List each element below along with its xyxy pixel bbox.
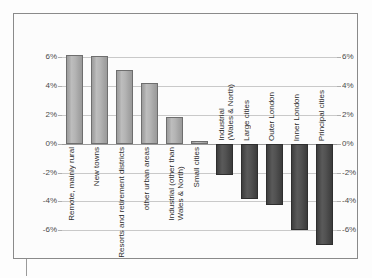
chart-container: 6%6%4%4%2%2%0%0%-2%-2%-4%-4%-6%-6% Remot… xyxy=(0,0,372,278)
y-axis-tick-mark-right xyxy=(337,173,341,174)
y-axis-tick-label-left: 0% xyxy=(45,140,57,148)
category-label: other urban areas xyxy=(142,147,151,210)
y-axis-tick-label-right: 4% xyxy=(342,82,354,90)
y-axis-tick-label-right: 0% xyxy=(342,140,354,148)
category-label: Large cities xyxy=(242,100,251,141)
y-axis-tick-label-left: -6% xyxy=(43,226,57,234)
category-label: Outer London xyxy=(267,92,276,141)
category-label: Remote, mainly rural xyxy=(67,147,76,221)
y-axis-tick-mark-right xyxy=(337,86,341,87)
y-axis-tick-label-right: 6% xyxy=(342,53,354,61)
y-axis-tick-label-right: -2% xyxy=(342,169,356,177)
category-label: Inner London xyxy=(292,94,301,141)
y-axis-tick-mark-right xyxy=(337,115,341,116)
category-labels-layer: Remote, mainly ruralNew townsResorts and… xyxy=(62,43,337,259)
y-axis-tick-label-right: 2% xyxy=(342,111,354,119)
y-axis-tick-label-right: -4% xyxy=(342,197,356,205)
y-axis-tick-label-left: 6% xyxy=(45,53,57,61)
plot-area: 6%6%4%4%2%2%0%0%-2%-2%-4%-4%-6%-6% Remot… xyxy=(62,43,337,259)
y-axis-tick-mark-right xyxy=(337,201,341,202)
category-label: Principal cities xyxy=(317,90,326,141)
y-axis-tick-label-left: 2% xyxy=(45,111,57,119)
y-axis-tick-mark-right xyxy=(337,230,341,231)
category-label: Industrial (other than Wales & North) xyxy=(167,147,185,220)
frame-bottom-tick xyxy=(26,259,27,276)
y-axis-tick-label-left: -2% xyxy=(43,169,57,177)
y-axis-tick-mark-right xyxy=(337,57,341,58)
chart-frame: 6%6%4%4%2%2%0%0%-2%-2%-4%-4%-6%-6% Remot… xyxy=(13,13,358,259)
category-label: New towns xyxy=(92,147,101,186)
y-axis-tick-label-left: -4% xyxy=(43,197,57,205)
y-axis-tick-label-left: 4% xyxy=(45,82,57,90)
y-axis-tick-label-right: -6% xyxy=(342,226,356,234)
category-label: Small cities xyxy=(192,147,201,187)
category-label: Industrial (Wales & North) xyxy=(217,84,235,141)
y-axis-tick-mark-right xyxy=(337,144,341,145)
category-label: Resorts and retirement districts xyxy=(117,147,126,258)
